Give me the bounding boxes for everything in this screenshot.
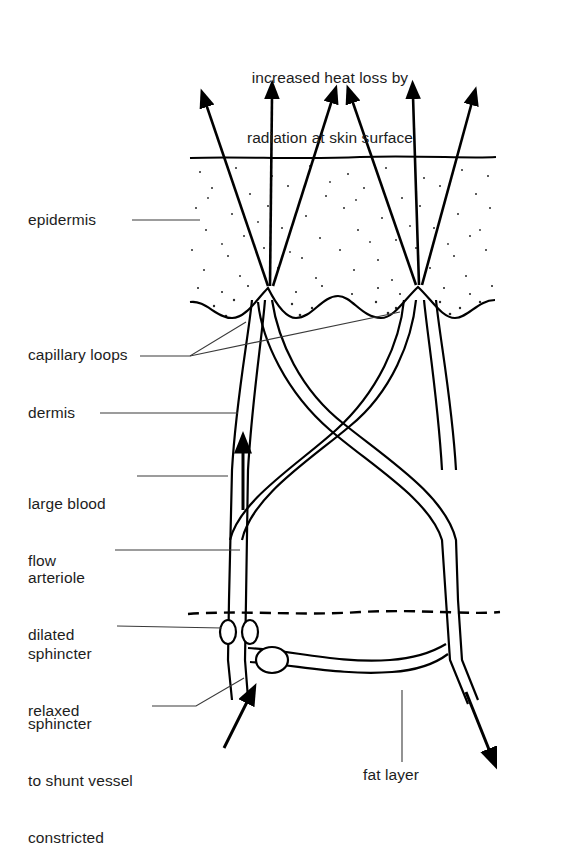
leader-capillary-left <box>140 322 246 356</box>
label-sphincter-relaxed-line-1: sphincter <box>28 644 92 663</box>
label-large-blood-flow-line-1: large blood <box>28 494 106 513</box>
sphincters <box>220 620 288 673</box>
figure-title-line-1: increased heat loss by <box>150 68 510 88</box>
label-dermis: dermis <box>28 403 75 422</box>
figure-title: increased heat loss by radiation at skin… <box>150 28 510 188</box>
label-sphincter-shunt-line-3: constricted <box>28 828 133 847</box>
label-epidermis: epidermis <box>28 210 96 229</box>
sphincter-relaxed-lobe <box>242 620 258 644</box>
label-sphincter-shunt-line-1: sphincter <box>28 714 133 733</box>
figure-title-line-2: radiation at skin surface <box>150 128 510 148</box>
outflow-arrow <box>466 692 490 752</box>
label-fat-layer: fat layer <box>363 765 419 784</box>
sphincter-relaxed-lobe <box>220 620 236 644</box>
label-sphincter-shunt-constricted: sphincter to shunt vessel constricted <box>28 676 133 847</box>
label-arteriole-line-1: arteriole <box>28 568 85 587</box>
dermis-fat-boundary <box>188 611 500 614</box>
sphincter-shunt-constricted <box>256 647 288 673</box>
label-sphincter-shunt-line-2: to shunt vessel <box>28 771 133 790</box>
capillary-loops <box>229 300 458 600</box>
leader-sphincter-relaxed <box>117 626 222 628</box>
inflow-arrow <box>224 700 248 748</box>
label-capillary-loops: capillary loops <box>28 345 128 364</box>
